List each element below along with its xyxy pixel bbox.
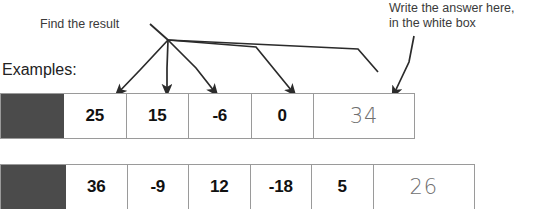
row-1-number-cell-4: 0	[252, 94, 315, 138]
row-1-number-cell-3: -6	[189, 94, 252, 138]
row-2-number-cell-2: -9	[128, 165, 190, 209]
annotation-write-the-answer: Write the answer here, in the white box	[389, 1, 515, 31]
arrow-to-answer-box	[392, 36, 414, 98]
annotation-write-line-2: in the white box	[389, 16, 515, 31]
annotation-find-the-result: Find the result	[40, 17, 119, 32]
arrow-to-cell-3	[168, 40, 218, 96]
row-2-number-cell-1: 36	[66, 165, 128, 209]
arrow-to-cell-4	[168, 40, 296, 96]
example-row-2: 36 -9 12 -18 5 26	[0, 164, 475, 209]
annotation-write-line-1: Write the answer here,	[389, 1, 515, 16]
row-2-number-cell-4: -18	[251, 165, 313, 209]
row-2-number-cell-5: 5	[312, 165, 374, 209]
row-1-leading-block	[1, 94, 64, 138]
example-row-1: 25 15 -6 0 34	[0, 93, 415, 139]
row-2-leading-block	[1, 165, 66, 209]
examples-label: Examples:	[2, 61, 77, 79]
arrow-to-cell-2	[167, 40, 168, 96]
row-1-number-cell-2: 15	[127, 94, 190, 138]
arrow-tail-find-result	[150, 24, 168, 40]
arrow-branch-right	[168, 40, 378, 72]
arrow-to-cell-1	[115, 40, 168, 96]
worksheet-canvas: Find the result Write the answer here, i…	[0, 0, 539, 209]
row-2-number-cell-3: 12	[189, 165, 251, 209]
row-1-number-cell-1: 25	[64, 94, 127, 138]
row-1-answer-cell[interactable]: 34	[314, 94, 414, 138]
row-2-answer-cell[interactable]: 26	[374, 165, 475, 209]
